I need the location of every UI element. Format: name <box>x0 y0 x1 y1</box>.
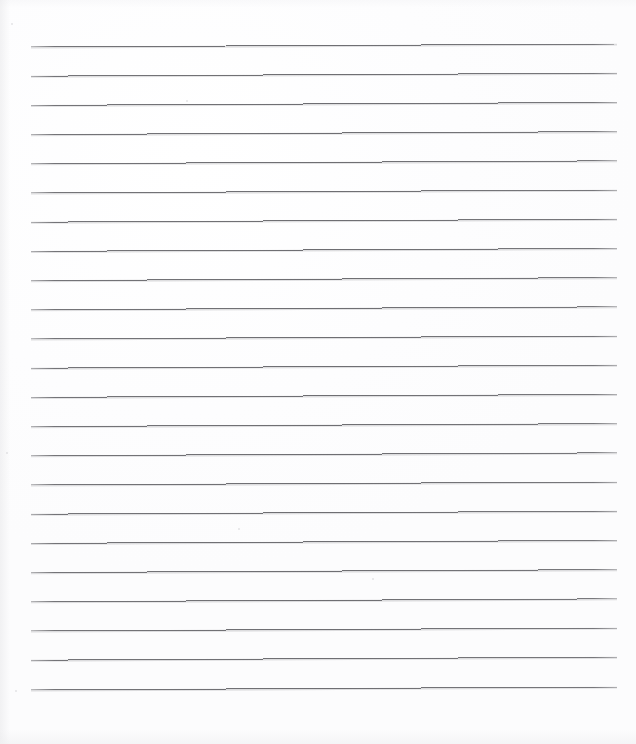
ruled-line <box>31 336 617 340</box>
ruled-line <box>31 190 617 194</box>
ruled-line <box>31 599 617 603</box>
ruled-line <box>31 511 617 515</box>
ruled-line <box>31 570 617 574</box>
ruled-line <box>31 657 617 661</box>
ruled-line <box>31 219 617 223</box>
scan-speck <box>238 528 240 530</box>
ruled-line <box>31 102 617 106</box>
ruled-line <box>31 453 617 457</box>
ruled-lines-svg <box>0 0 636 744</box>
ruled-line <box>31 540 617 544</box>
ruled-line <box>31 482 617 486</box>
ruled-line <box>31 394 617 398</box>
ruled-line <box>31 73 617 77</box>
ruled-line <box>31 628 617 632</box>
scan-speck <box>11 23 13 25</box>
ruled-line <box>31 161 617 165</box>
ruled-line <box>31 307 617 311</box>
scan-speck <box>372 578 374 580</box>
scan-speck <box>6 452 8 454</box>
ruled-line <box>31 424 617 428</box>
ruled-lines-layer <box>0 0 636 744</box>
ruled-line <box>31 248 617 252</box>
lined-paper-page <box>0 0 636 744</box>
ruled-line <box>31 365 617 369</box>
ruled-line <box>31 687 617 691</box>
ruled-line <box>31 44 617 48</box>
ruled-line <box>31 278 617 282</box>
scan-speck <box>186 100 188 102</box>
ruled-line <box>31 132 617 136</box>
scan-speck <box>15 690 17 692</box>
